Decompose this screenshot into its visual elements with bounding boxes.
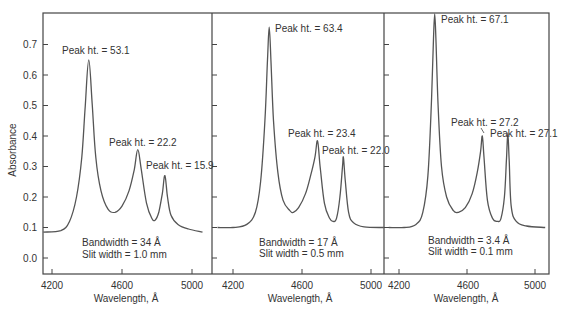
x-tick-label: 4200 [388,280,411,291]
x-tick-label: 5000 [524,280,547,291]
panel-1-annotations: Peak ht. = 53.1 Peak ht. = 22.2 Peak ht.… [41,45,214,304]
peak-label: Peak ht. = 23.4 [288,128,356,139]
y-tick-label: 0.4 [23,131,37,142]
y-tick-label: 0.0 [23,253,37,264]
x-tick-label: 4200 [222,280,245,291]
y-tick-label: 0.5 [23,100,37,111]
y-tick-label: 0.2 [23,192,37,203]
peak-label: Peak ht. = 27.2 [451,117,519,128]
x-axis-title: Wavelength, Å [268,292,333,304]
x-tick-label: 4600 [111,280,134,291]
x-tick-label: 4200 [41,280,64,291]
x-tick-label: 5000 [360,280,383,291]
peak-label: Peak ht. = 53.1 [62,45,130,56]
peak-leader-line [481,128,484,133]
x-axis-title: Wavelength, Å [434,292,499,304]
x-tick-label: 4600 [457,280,480,291]
slit-width-label: Slit width = 1.0 mm [82,249,167,260]
panel-2-annotations: Peak ht. = 63.4 Peak ht. = 23.4 Peak ht.… [222,23,390,304]
peak-label: Peak ht. = 67.1 [441,14,509,25]
absorbance-spectra-figure: Absorbance 0.0 0.1 0.2 0.3 0.4 0.5 0.6 0… [0,0,564,315]
peak-label: Peak ht. = 22.2 [109,137,177,148]
peak-label: Peak ht. = 15.9 [146,160,214,171]
x-tick-label: 4600 [291,280,314,291]
bandwidth-label: Bandwidth = 34 Å [82,236,161,248]
figure-canvas: Absorbance 0.0 0.1 0.2 0.3 0.4 0.5 0.6 0… [0,0,564,315]
bandwidth-label: Bandwidth = 3.4 Å [428,234,510,246]
y-tick-label: 0.7 [23,39,37,50]
slit-width-label: Slit width = 0.1 mm [428,246,513,257]
peak-label: Peak ht. = 22.0 [322,145,390,156]
y-axis-title: Absorbance [7,123,18,177]
y-tick-labels: 0.0 0.1 0.2 0.3 0.4 0.5 0.6 0.7 [23,39,37,264]
y-tick-label: 0.6 [23,70,37,81]
x-axis-title: Wavelength, Å [94,292,159,304]
x-tick-label: 5000 [181,280,204,291]
bandwidth-label: Bandwidth = 17 Å [259,236,338,248]
peak-label: Peak ht. = 63.4 [275,23,343,34]
y-tick-label: 0.3 [23,161,37,172]
panel-3-annotations: Peak ht. = 67.1 Peak ht. = 27.2 Peak ht.… [388,14,558,304]
y-tick-label: 0.1 [23,222,37,233]
peak-label: Peak ht. = 27.1 [490,128,558,139]
slit-width-label: Slit width = 0.5 mm [259,248,344,259]
